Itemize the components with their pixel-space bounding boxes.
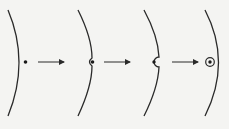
particle-dot — [91, 60, 95, 64]
membrane-curve — [144, 10, 159, 116]
particle-dot — [24, 60, 28, 64]
membrane-curve — [78, 10, 92, 116]
stage-1 — [8, 10, 27, 116]
particle-dot — [208, 60, 211, 63]
membrane-curve — [8, 10, 19, 116]
stage-2 — [78, 10, 94, 116]
particle-dot — [152, 60, 155, 63]
membrane-curve — [205, 10, 219, 116]
stage-3 — [144, 10, 159, 116]
stage-4 — [205, 10, 219, 116]
endocytosis-diagram — [0, 0, 229, 129]
